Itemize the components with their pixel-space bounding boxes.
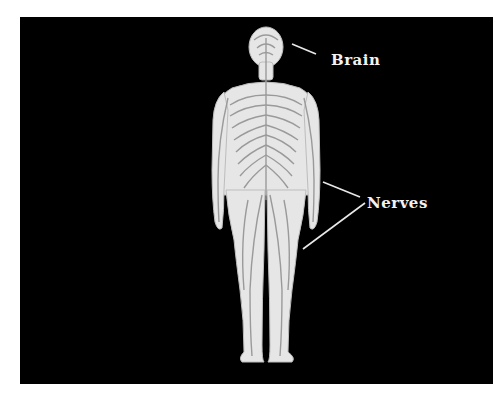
brain-pointer-line (292, 44, 316, 54)
nerves-pointer-line-upper (323, 182, 360, 197)
nerves-label: Nerves (367, 194, 428, 212)
brain-label: Brain (331, 51, 380, 69)
